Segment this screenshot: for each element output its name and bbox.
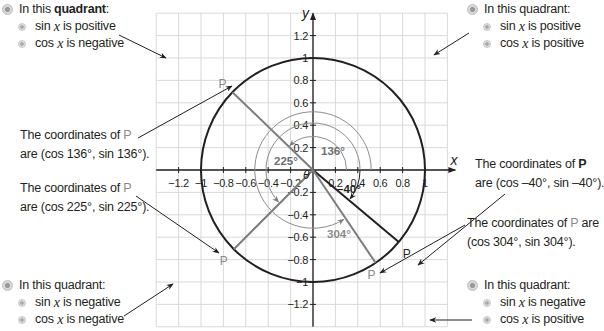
y-tick-label: −0.8 <box>287 254 308 266</box>
y-tick-label: 1.2 <box>294 30 309 42</box>
note-text: The coordinates of <box>20 181 123 195</box>
coordinates-note-neg40: The coordinates of P are (cos –40°, sin … <box>475 155 604 193</box>
quadrant-note-bottom-left: In this quadrant: sin x is negative cos … <box>2 277 124 328</box>
fn-name: sin <box>500 294 515 311</box>
point-label-p: P <box>368 268 376 282</box>
fn-name: cos <box>35 311 54 328</box>
fn-name: cos <box>35 35 54 52</box>
theta-label: θ <box>303 168 310 182</box>
bullet-icon <box>483 316 491 324</box>
quadrant-line-sin: sin x is positive <box>467 18 584 35</box>
note-text: The coordinates of <box>467 216 570 230</box>
note-coordinates: are (cos 225°, sin 225°). <box>20 198 149 217</box>
sign-text: is negative <box>63 35 124 52</box>
coordinates-note-136: The coordinates of P are (cos 136°, sin … <box>20 126 149 164</box>
sign-text: is positive <box>528 311 584 328</box>
bullet-icon <box>18 40 26 48</box>
bullet-icon <box>18 299 26 307</box>
angle-label-neg40: –40° <box>337 183 361 195</box>
point-label-p: P <box>220 254 228 268</box>
quadrant-heading: In this quadrant: <box>2 277 124 294</box>
quadrant-heading: In this quadrant: <box>467 1 584 18</box>
y-tick-label: −0.4 <box>287 209 308 221</box>
fn-name: sin <box>35 18 50 35</box>
heading-text: In this <box>19 1 51 18</box>
quadrant-line-cos: cos x is negative <box>2 311 124 328</box>
heading-text: In this quadrant: <box>19 277 105 294</box>
bullet-icon <box>467 280 478 291</box>
bullet-icon <box>2 4 13 15</box>
fn-name: cos <box>500 311 519 328</box>
sign-text: is positive <box>525 18 581 35</box>
note-text: The coordinates of <box>20 128 123 142</box>
bullet-icon <box>467 4 478 15</box>
x-tick-label: 0.8 <box>395 177 410 189</box>
note-text: are <box>578 216 599 230</box>
y-tick-label: 0.6 <box>294 97 309 109</box>
note-coordinates: (cos 304°, sin 304°). <box>467 233 599 252</box>
bullet-icon <box>483 40 491 48</box>
quadrant-note-top-left: In this quadrant : sin x is positive cos… <box>2 1 124 52</box>
quadrant-line-sin: sin x is negative <box>2 294 124 311</box>
x-tick-label: −0.6 <box>236 177 257 189</box>
quadrant-note-bottom-right: In this quadrant: sin x is negative cos … <box>467 277 586 328</box>
point-label: P <box>578 157 586 171</box>
bullet-icon <box>18 316 26 324</box>
y-axis-label: y <box>301 5 310 21</box>
note-coordinates: are (cos 136°, sin 136°). <box>20 145 149 164</box>
point-label: P <box>570 216 578 230</box>
bullet-icon <box>483 299 491 307</box>
quadrant-heading: In this quadrant: <box>467 277 586 294</box>
fn-name: cos <box>500 35 519 52</box>
y-tick-label: −0.6 <box>287 231 308 243</box>
angle-label-225: 225° <box>274 155 298 167</box>
quadrant-line-cos: cos x is positive <box>467 311 586 328</box>
callout-top-left <box>119 35 166 58</box>
quadrant-line-cos: cos x is positive <box>467 35 584 52</box>
fn-name: sin <box>35 294 50 311</box>
sign-text: is negative <box>60 294 121 311</box>
point-label: P <box>123 181 131 195</box>
sign-text: is positive <box>60 18 116 35</box>
angle-label-304: 304° <box>327 228 351 240</box>
quadrant-line-cos: cos x is negative <box>2 35 124 52</box>
quadrant-note-top-right: In this quadrant: sin x is positive cos … <box>467 1 584 52</box>
y-tick-label: 0.8 <box>294 74 309 86</box>
y-tick-label: −1.2 <box>287 298 308 310</box>
sign-text: is negative <box>63 311 124 328</box>
sign-text: is positive <box>528 35 584 52</box>
quadrant-line-sin: sin x is negative <box>467 294 586 311</box>
x-tick-label: −1.2 <box>168 177 189 189</box>
x-tick-label: 0.6 <box>373 177 388 189</box>
x-tick-label: −0.8 <box>213 177 234 189</box>
point-label: P <box>123 128 131 142</box>
callout-top-right <box>434 33 469 55</box>
bullet-icon <box>18 23 26 31</box>
bullet-icon <box>2 280 13 291</box>
heading-suffix: : <box>106 1 109 18</box>
bullet-icon <box>483 23 491 31</box>
heading-bold-text: quadrant <box>54 1 106 18</box>
note-coordinates: are (cos –40°, sin –40°). <box>475 174 604 193</box>
heading-text: In this quadrant: <box>484 277 570 294</box>
sign-text: is negative <box>525 294 586 311</box>
point-label-p: P <box>218 77 226 91</box>
coordinates-note-304: The coordinates of P are (cos 304°, sin … <box>467 214 599 252</box>
x-axis-label: x <box>449 152 458 168</box>
y-tick-label: 0.2 <box>294 142 309 154</box>
note-text: The coordinates of <box>475 157 578 171</box>
quadrant-heading: In this quadrant : <box>2 1 124 18</box>
quadrant-line-sin: sin x is positive <box>2 18 124 35</box>
coordinates-note-225: The coordinates of P are (cos 225°, sin … <box>20 179 149 217</box>
y-tick-label: 0.4 <box>294 119 309 131</box>
heading-text: In this quadrant: <box>484 1 570 18</box>
callout-bottom-left <box>124 284 173 316</box>
angle-label-136: 136° <box>321 145 345 157</box>
fn-name: sin <box>500 18 515 35</box>
